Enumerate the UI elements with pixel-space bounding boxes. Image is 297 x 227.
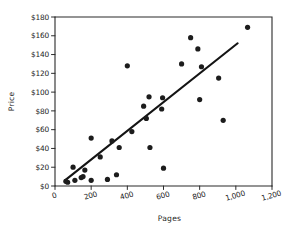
y-tick-label: $160 (31, 31, 50, 40)
data-point (105, 177, 110, 182)
y-tick-label: $60 (35, 125, 49, 134)
y-tick-label: $120 (31, 69, 50, 78)
x-tick-label: 1,000 (224, 188, 246, 202)
data-point (146, 94, 151, 99)
data-points-group (63, 25, 250, 185)
data-point (117, 145, 122, 150)
data-point (161, 166, 166, 171)
data-point (80, 174, 85, 179)
data-point (147, 145, 152, 150)
y-tick-label: $40 (35, 144, 49, 153)
data-point (141, 104, 146, 109)
data-point (160, 95, 165, 100)
data-point (89, 178, 94, 183)
data-point (245, 25, 250, 30)
data-point (70, 165, 75, 170)
data-point (197, 97, 202, 102)
data-point (199, 64, 204, 69)
chart-canvas: $0$20$40$60$80$100$120$140$160$180020040… (0, 0, 297, 227)
y-tick-label: $80 (35, 107, 49, 116)
data-point (65, 180, 70, 185)
x-tick-label: 1,200 (260, 188, 282, 202)
data-point (82, 167, 87, 172)
data-point (72, 178, 77, 183)
x-tick-label: 0 (51, 191, 58, 201)
data-point (114, 172, 119, 177)
x-tick-label: 400 (119, 189, 135, 202)
data-point (129, 129, 134, 134)
x-tick-label: 600 (155, 189, 171, 202)
x-tick-label: 800 (191, 189, 207, 202)
x-axis-ticks: 02004006008001,0001,200 (51, 186, 283, 203)
y-tick-label: $100 (31, 88, 50, 97)
data-point (159, 106, 164, 111)
trend-line-group (65, 43, 238, 180)
data-point (125, 63, 130, 68)
y-tick-label: $0 (40, 182, 50, 191)
data-point (195, 46, 200, 51)
data-point (188, 35, 193, 40)
trend-line (65, 43, 238, 180)
y-tick-label: $140 (31, 50, 50, 59)
data-point (109, 138, 114, 143)
data-point (89, 136, 94, 141)
data-point (144, 116, 149, 121)
y-tick-label: $180 (31, 13, 50, 22)
data-point (98, 154, 103, 159)
y-axis-ticks: $0$20$40$60$80$100$120$140$160$180 (31, 13, 55, 191)
x-axis-title: Pages (158, 214, 181, 223)
data-point (179, 61, 184, 66)
scatter-plot-figure: $0$20$40$60$80$100$120$140$160$180020040… (0, 0, 297, 227)
data-point (221, 118, 226, 123)
y-axis-title: Price (7, 92, 16, 112)
x-tick-label: 200 (83, 189, 99, 202)
data-point (216, 75, 221, 80)
y-tick-label: $20 (35, 163, 49, 172)
